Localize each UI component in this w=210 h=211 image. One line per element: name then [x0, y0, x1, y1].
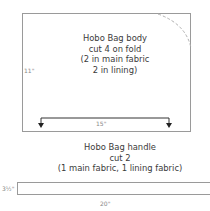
body-width-label: 15" — [96, 120, 106, 127]
handle-pattern-outline — [17, 182, 210, 195]
handle-piece-instructions: Hobo Bag handle cut 2 (1 main fabric, 1 … — [30, 142, 210, 174]
handle-height-label: 3½" — [2, 185, 14, 192]
handle-width-label: 20" — [100, 200, 110, 207]
handle-title: Hobo Bag handle — [30, 142, 210, 153]
handle-cut-count: cut 2 — [30, 153, 210, 164]
body-fabric-lining: 2 in lining) — [50, 65, 180, 76]
handle-fabric-note: (1 main fabric, 1 lining fabric) — [30, 163, 210, 174]
arrow-head-right-icon — [166, 123, 172, 128]
body-height-label: 11" — [24, 67, 34, 74]
body-piece-instructions: Hobo Bag body cut 4 on fold (2 in main f… — [50, 33, 180, 75]
body-title: Hobo Bag body — [50, 33, 180, 44]
arrow-head-left-icon — [38, 123, 44, 128]
body-fabric-main: (2 in main fabric — [50, 54, 180, 65]
pattern-annotations — [0, 0, 210, 211]
body-cut-count: cut 4 on fold — [50, 44, 180, 55]
